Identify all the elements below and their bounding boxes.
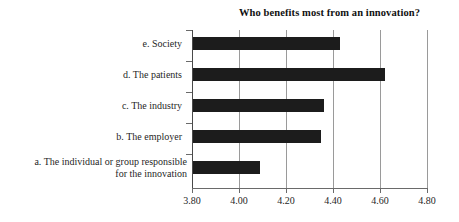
x-axis-tick-4.60 — [380, 188, 381, 193]
x-tick-label-4.80: 4.80 — [407, 195, 447, 206]
x-axis-tick-4.80 — [427, 188, 428, 193]
x-axis-tick-4.20 — [286, 188, 287, 193]
y-axis-tick-3 — [186, 92, 192, 93]
bar-d-the-patients — [192, 68, 385, 81]
category-label-d-the-patients: d. The patients — [123, 69, 182, 81]
bar-e-society — [192, 37, 340, 50]
category-label-c-the-industry: c. The industry — [122, 100, 182, 112]
gridline-4.40 — [333, 30, 334, 188]
category-label-e-society: e. Society — [143, 38, 182, 50]
category-label-a-the-individual-or-group: a. The individual or group responsible f… — [0, 156, 187, 180]
gridline-4.60 — [380, 30, 381, 188]
gridline-4.80 — [427, 30, 428, 188]
bar-c-the-industry — [192, 99, 324, 112]
x-axis-tick-4.00 — [239, 188, 240, 193]
category-label-a-line1: a. The individual or group responsible — [34, 156, 187, 167]
x-tick-label-4.60: 4.60 — [360, 195, 400, 206]
x-tick-label-4.20: 4.20 — [266, 195, 306, 206]
x-axis-tick-4.40 — [333, 188, 334, 193]
y-axis-tick-1 — [186, 30, 192, 31]
plot-area — [192, 30, 427, 188]
x-tick-label-4.00: 4.00 — [219, 195, 259, 206]
y-axis-line — [192, 30, 193, 188]
category-label-a-line2: for the innovation — [115, 168, 187, 179]
bar-a-the-individual-or-group — [192, 161, 260, 174]
y-axis-tick-4 — [186, 123, 192, 124]
x-axis-line — [192, 188, 428, 189]
x-axis-tick-3.80 — [192, 188, 193, 193]
chart-title: Who benefits most from an innovation? — [200, 7, 459, 18]
x-tick-label-4.40: 4.40 — [313, 195, 353, 206]
y-axis-tick-2 — [186, 61, 192, 62]
y-axis-tick-5 — [186, 154, 192, 155]
x-tick-label-3.80: 3.80 — [172, 195, 212, 206]
bar-chart: Who benefits most from an innovation? e.… — [0, 0, 459, 222]
bar-b-the-employer — [192, 130, 321, 143]
category-label-b-the-employer: b. The employer — [116, 131, 182, 143]
